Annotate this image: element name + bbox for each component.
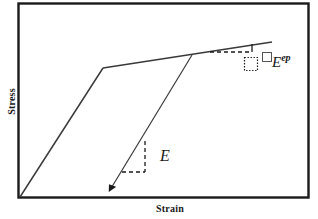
elastoplastic-modulus-label: Eep	[272, 53, 291, 70]
plastic-hardening-branch	[103, 42, 272, 68]
figure-container: Stress Strain E Eep	[0, 0, 318, 219]
elastic-modulus-label: E	[160, 148, 170, 164]
elastoplastic-modulus-superscript: ep	[281, 52, 290, 63]
open-square-marker	[263, 53, 272, 62]
figure-border	[19, 4, 309, 198]
dotted-square-marker	[245, 58, 258, 71]
elastic-loading-branch	[20, 68, 103, 197]
elastoplastic-modulus-base: E	[272, 54, 281, 70]
x-axis-label: Strain	[140, 203, 200, 214]
y-axis-label: Stress	[6, 78, 17, 126]
stress-strain-plot	[0, 0, 318, 219]
elastic-unloading-branch	[110, 55, 192, 190]
